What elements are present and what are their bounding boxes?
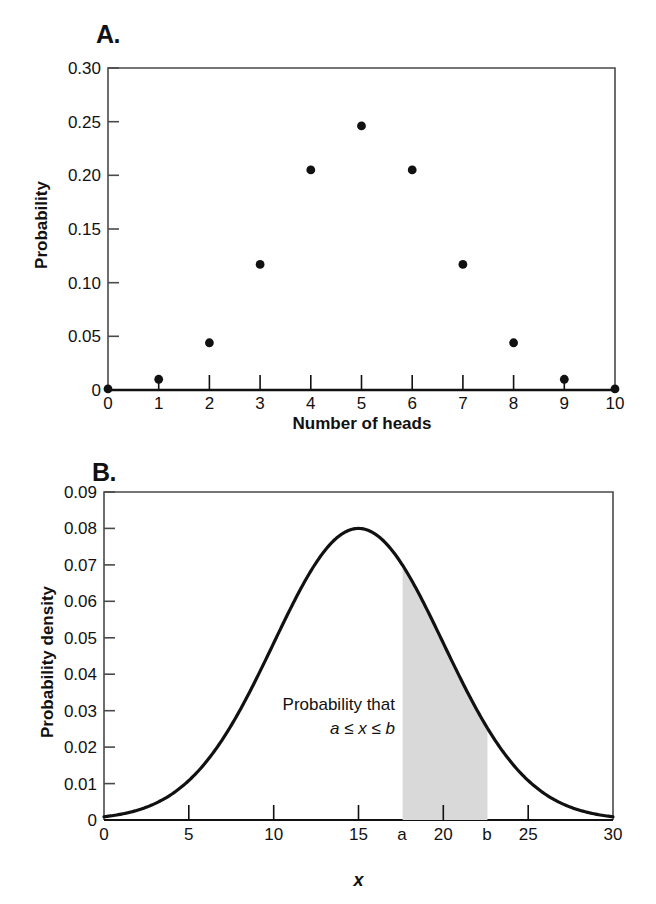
panel-b-x-tick-1: 5 bbox=[184, 825, 193, 844]
panel-a-data-points bbox=[104, 122, 620, 394]
panel-a-binomial-scatter: A. Probability Number of heads 0.30 0.25 bbox=[0, 0, 656, 452]
panel-b-density-curve bbox=[104, 528, 613, 816]
panel-b-y-tick-4: 0.05 bbox=[64, 629, 97, 648]
panel-a-x-tick-7: 7 bbox=[458, 394, 467, 413]
panel-a-x-tick-0: 0 bbox=[103, 394, 112, 413]
panel-a-point bbox=[306, 166, 315, 175]
panel-a-x-tick-5: 5 bbox=[357, 394, 366, 413]
panel-b-y-tick-2: 0.07 bbox=[64, 556, 97, 575]
panel-b-annotation: Probability that a ≤ x ≤ b bbox=[283, 695, 396, 738]
panel-b-shaded-region bbox=[403, 565, 488, 820]
panel-a-point bbox=[154, 375, 163, 384]
statistics-figure: A. Probability Number of heads 0.30 0.25 bbox=[0, 0, 656, 904]
panel-a-x-tick-9: 9 bbox=[560, 394, 569, 413]
panel-a-plot: 0.30 0.25 0.20 0.15 0.10 0.05 0 bbox=[0, 0, 656, 452]
panel-b-y-tick-labels: 0.09 0.08 0.07 0.06 0.05 0.04 0.03 0.02 … bbox=[64, 483, 97, 830]
panel-b-x-tick-a: a bbox=[397, 825, 407, 844]
panel-a-y-tick-5: 0.05 bbox=[68, 327, 101, 346]
panel-a-point bbox=[408, 166, 417, 175]
panel-b-plot: 0.09 0.08 0.07 0.06 0.05 0.04 0.03 0.02 … bbox=[0, 452, 656, 904]
panel-b-annotation-line-2: a ≤ x ≤ b bbox=[330, 719, 395, 738]
panel-a-y-tick-4: 0.10 bbox=[68, 274, 101, 293]
panel-a-y-ticks bbox=[108, 68, 119, 336]
panel-a-label: A. bbox=[96, 20, 120, 49]
panel-a-y-tick-labels: 0.30 0.25 0.20 0.15 0.10 0.05 0 bbox=[68, 59, 101, 400]
panel-a-x-ticks bbox=[159, 375, 565, 390]
panel-a-y-tick-3: 0.15 bbox=[68, 220, 101, 239]
panel-b-x-tick-3: 15 bbox=[349, 825, 368, 844]
panel-a-y-tick-2: 0.20 bbox=[68, 166, 101, 185]
panel-b-x-tick-7: 25 bbox=[519, 825, 538, 844]
panel-a-point bbox=[357, 122, 366, 131]
panel-b-x-tick-b: b bbox=[482, 825, 491, 844]
panel-a-x-tick-2: 2 bbox=[205, 394, 214, 413]
panel-b-y-tick-9: 0 bbox=[88, 811, 97, 830]
panel-a-x-tick-10: 10 bbox=[606, 394, 625, 413]
panel-a-point bbox=[560, 375, 569, 384]
panel-a-point bbox=[205, 338, 214, 347]
panel-b-frame bbox=[104, 492, 613, 820]
panel-b-y-ticks bbox=[104, 492, 115, 784]
panel-b-normal-curve: B. Probability density x 0. bbox=[0, 452, 656, 904]
panel-b-x-tick-0: 0 bbox=[99, 825, 108, 844]
panel-a-point bbox=[104, 385, 113, 394]
panel-a-x-axis-title: Number of heads bbox=[108, 414, 616, 434]
panel-b-y-tick-3: 0.06 bbox=[64, 592, 97, 611]
panel-a-point bbox=[509, 338, 518, 347]
panel-a-x-tick-3: 3 bbox=[255, 394, 264, 413]
panel-a-x-tick-8: 8 bbox=[509, 394, 518, 413]
panel-a-x-tick-labels: 0 1 2 3 4 5 6 7 8 9 10 bbox=[103, 394, 624, 413]
panel-a-y-tick-1: 0.25 bbox=[68, 113, 101, 132]
panel-a-y-tick-6: 0 bbox=[92, 381, 101, 400]
panel-b-annotation-line-1: Probability that bbox=[283, 695, 396, 714]
panel-a-frame bbox=[108, 68, 615, 390]
panel-b-x-tick-5: 20 bbox=[434, 825, 453, 844]
panel-a-x-tick-6: 6 bbox=[407, 394, 416, 413]
panel-b-y-tick-8: 0.01 bbox=[64, 775, 97, 794]
panel-a-point bbox=[256, 260, 265, 269]
panel-a-x-tick-1: 1 bbox=[154, 394, 163, 413]
panel-b-x-tick-8: 30 bbox=[604, 825, 623, 844]
panel-a-point bbox=[611, 385, 620, 394]
panel-b-y-tick-5: 0.04 bbox=[64, 665, 97, 684]
panel-b-y-tick-1: 0.08 bbox=[64, 519, 97, 538]
panel-b-x-axis-title: x bbox=[104, 870, 613, 891]
panel-b-y-axis-title: Probability density bbox=[38, 552, 58, 772]
panel-b-y-tick-7: 0.02 bbox=[64, 738, 97, 757]
panel-a-y-tick-0: 0.30 bbox=[68, 59, 101, 78]
panel-b-x-tick-labels: 0 5 10 15 a 20 b 25 30 bbox=[99, 825, 622, 844]
panel-a-y-axis-title: Probability bbox=[32, 165, 52, 285]
panel-b-y-tick-6: 0.03 bbox=[64, 702, 97, 721]
panel-b-x-tick-2: 10 bbox=[264, 825, 283, 844]
panel-a-x-tick-4: 4 bbox=[306, 394, 315, 413]
panel-b-label: B. bbox=[92, 458, 116, 487]
panel-a-point bbox=[459, 260, 468, 269]
